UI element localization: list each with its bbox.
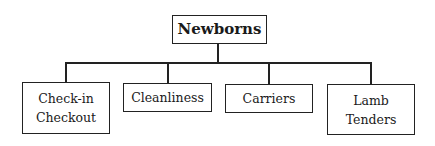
node-label: Carriers (243, 89, 296, 108)
node-label-line: Tenders (346, 110, 397, 129)
node-lamb-tenders: Lamb Tenders (327, 84, 415, 135)
node-label: Newborns (178, 20, 262, 39)
node-label-line: Lamb (346, 91, 397, 110)
node-label-line: Check-in (36, 89, 96, 108)
node-label: Cleanliness (131, 88, 204, 107)
child-connector-1 (65, 62, 67, 83)
node-label-line: Checkout (36, 108, 96, 127)
node-newborns: Newborns (172, 15, 267, 44)
child-connector-2 (167, 62, 169, 84)
node-carriers: Carriers (225, 84, 313, 113)
root-connector (217, 43, 219, 63)
node-cleanliness: Cleanliness (123, 83, 212, 112)
child-connector-3 (268, 62, 270, 84)
horizontal-bus (65, 62, 371, 64)
child-connector-4 (370, 62, 372, 85)
node-check-in-checkout: Check-in Checkout (22, 82, 110, 134)
